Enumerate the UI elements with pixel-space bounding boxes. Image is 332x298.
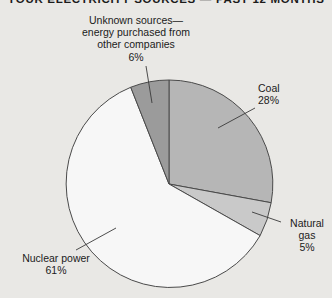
slice-label-unknown-sources: Unknown sources— energy purchased from o… <box>56 14 216 63</box>
slice-label-nuclear-power: Nuclear power 61% <box>4 252 108 276</box>
slice-label-coal: Coal 28% <box>258 82 328 106</box>
slice-label-natural-gas: Natural gas 5% <box>283 217 331 254</box>
pie-chart-figure: YOUR ELECTRICITY SOURCES — PAST 12 MONTH… <box>0 0 332 298</box>
